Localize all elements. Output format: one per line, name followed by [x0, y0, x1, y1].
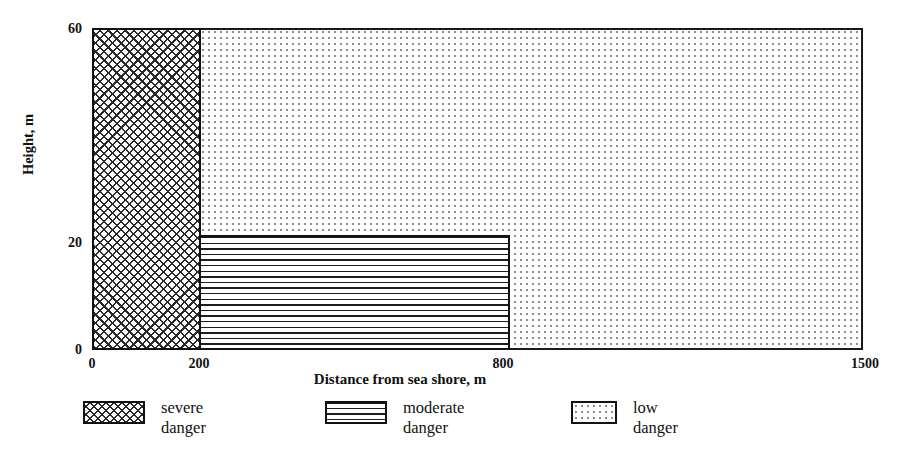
- x-tick-800: 800: [481, 357, 525, 371]
- x-axis-title: Distance from sea shore, m: [200, 371, 600, 388]
- y-axis-title: Height, m: [20, 75, 37, 215]
- legend-swatch-moderate-horizontal-lines: [325, 401, 387, 424]
- legend-item-low: low danger: [571, 398, 678, 438]
- y-tick-0: 0: [42, 343, 82, 357]
- plot-area: [92, 28, 863, 350]
- region-severe-danger: [92, 28, 201, 350]
- x-tick-0: 0: [72, 357, 112, 371]
- y-tick-60: 60: [42, 22, 82, 36]
- legend-label-low: low danger: [633, 398, 678, 438]
- danger-zone-chart: 60 20 0 0 200 800 1500 Height, m Distanc…: [0, 0, 911, 472]
- legend-item-severe: severe danger: [83, 398, 206, 438]
- x-tick-1500: 1500: [839, 357, 891, 371]
- legend-swatch-low-dots: [571, 401, 617, 424]
- legend-item-moderate: moderate danger: [325, 398, 464, 438]
- legend-label-moderate: moderate danger: [403, 398, 464, 438]
- legend-label-severe: severe danger: [161, 398, 206, 438]
- region-moderate-danger: [199, 235, 510, 350]
- legend: severe danger moderate danger low danger: [0, 396, 911, 458]
- x-tick-200: 200: [177, 357, 221, 371]
- y-tick-20: 20: [42, 236, 82, 250]
- legend-swatch-severe-crosshatch: [83, 401, 145, 424]
